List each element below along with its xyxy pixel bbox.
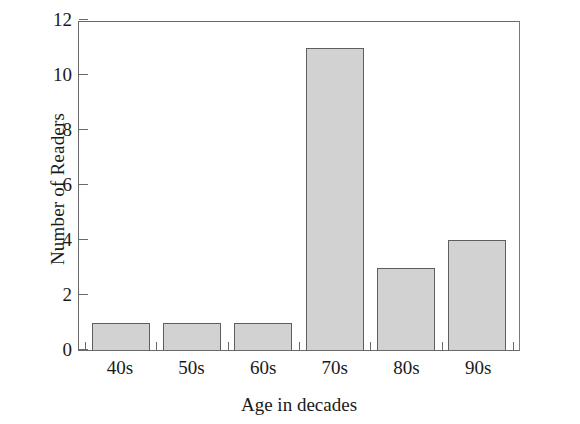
plot-area: 024681012 xyxy=(78,21,520,351)
bar-group xyxy=(377,22,435,350)
bar-group xyxy=(234,22,292,350)
bars-container xyxy=(79,22,519,350)
x-tick-label: 40s xyxy=(91,357,149,379)
x-tick-label: 80s xyxy=(377,357,435,379)
y-tick-label: 4 xyxy=(63,229,73,251)
y-tick-label: 8 xyxy=(63,119,73,141)
x-tick xyxy=(442,342,443,350)
x-axis-tick-labels: 40s50s60s70s80s90s xyxy=(78,357,520,379)
bar-group xyxy=(306,22,364,350)
x-tick-label: 70s xyxy=(306,357,364,379)
y-tick-label: 10 xyxy=(53,64,72,86)
y-tick: 12 xyxy=(79,19,88,20)
x-tick xyxy=(513,342,514,350)
bar xyxy=(163,323,221,351)
bar xyxy=(306,48,364,351)
x-tick xyxy=(85,342,86,350)
bar xyxy=(92,323,150,351)
bar-group xyxy=(92,22,150,350)
bar-group xyxy=(448,22,506,350)
x-tick xyxy=(156,342,157,350)
x-tick-label: 60s xyxy=(234,357,292,379)
x-axis-title: Age in decades xyxy=(78,394,520,416)
x-tick-label: 50s xyxy=(162,357,220,379)
x-tick-label: 90s xyxy=(449,357,507,379)
bar xyxy=(234,323,292,351)
bar-group xyxy=(163,22,221,350)
y-tick-label: 6 xyxy=(63,174,73,196)
x-tick xyxy=(370,342,371,350)
bar xyxy=(377,268,435,351)
y-tick-label: 2 xyxy=(63,284,73,306)
x-tick xyxy=(228,342,229,350)
y-tick-label: 12 xyxy=(53,9,72,31)
y-tick-label: 0 xyxy=(63,339,73,361)
bar xyxy=(448,240,506,350)
bar-chart-figure: Number of Readers 024681012 40s50s60s70s… xyxy=(0,0,580,424)
x-tick xyxy=(299,342,300,350)
